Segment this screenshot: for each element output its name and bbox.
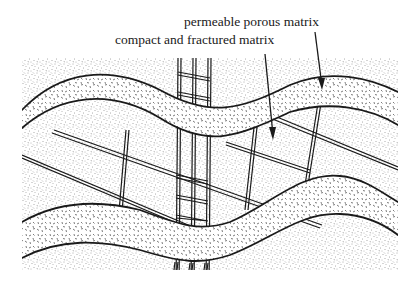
aquifer-diagram: permeable porous matrix compact and frac…	[0, 0, 417, 290]
label-compact-fractured-matrix: compact and fractured matrix	[115, 32, 275, 47]
label-permeable-porous-matrix: permeable porous matrix	[184, 14, 319, 29]
